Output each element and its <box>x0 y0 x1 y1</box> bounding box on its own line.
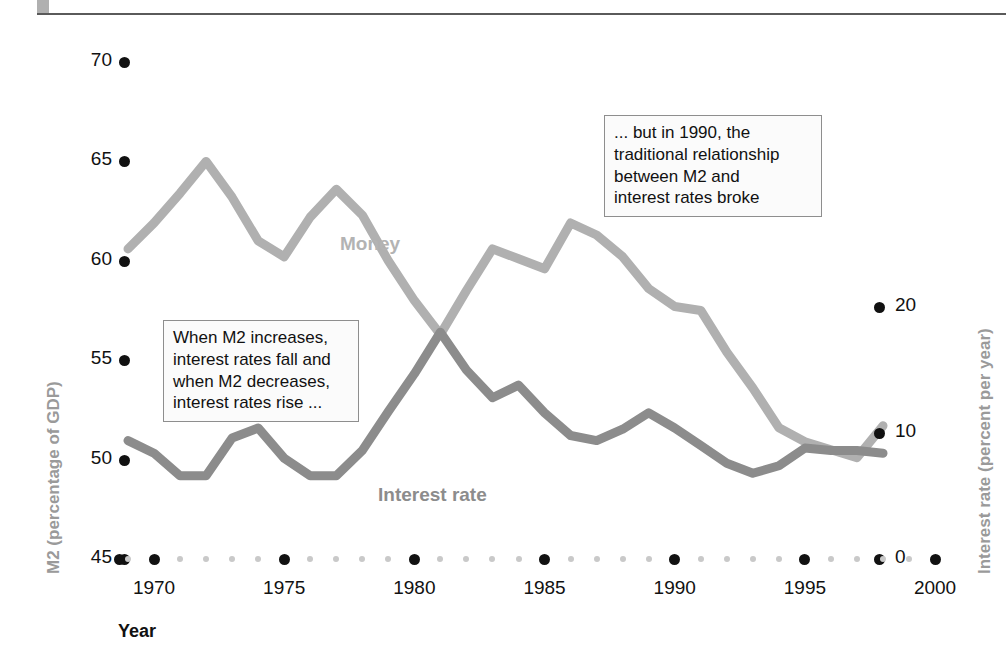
x-axis-tick-dot <box>930 554 941 565</box>
x-axis-tick-dot <box>149 554 160 565</box>
annotation-line: When M2 increases, <box>173 327 349 349</box>
x-axis-title: Year <box>118 621 156 642</box>
y-axis-left-tick-label: 50 <box>72 447 112 469</box>
series-label-interest: Interest rate <box>378 484 487 506</box>
annotation-m2-interest-relationship: When M2 increases, interest rates fall a… <box>163 320 359 422</box>
y-axis-left-tick-dot <box>119 256 130 267</box>
x-axis-minor-dot <box>854 556 860 562</box>
chart-page: 455055606570 01020 197019751980198519901… <box>0 0 1006 667</box>
x-axis-tick-dot <box>799 554 810 565</box>
x-axis-tick-label: 1970 <box>114 577 194 599</box>
x-axis-minor-dot <box>620 556 626 562</box>
x-axis-minor-dot <box>698 556 704 562</box>
x-axis-minor-dot <box>568 556 574 562</box>
y-axis-right-title: Interest rate (percent per year) <box>975 328 995 574</box>
x-axis-minor-dot <box>646 556 652 562</box>
x-axis-origin-dot <box>114 554 125 565</box>
y-axis-left-tick-label: 55 <box>72 347 112 369</box>
y-axis-left-tick-label: 60 <box>72 248 112 270</box>
x-axis-minor-dot <box>750 556 756 562</box>
x-axis-minor-dot <box>880 556 886 562</box>
y-axis-right-tick-label: 20 <box>895 294 941 316</box>
y-axis-left-tick-label: 45 <box>72 546 112 568</box>
x-axis-tick-label: 1985 <box>505 577 585 599</box>
annotation-line: interest rates rise ... <box>173 392 349 414</box>
y-axis-left-tick-label: 70 <box>72 49 112 71</box>
x-axis-tick-label: 1990 <box>635 577 715 599</box>
y-axis-right-tick-dot <box>874 428 885 439</box>
annotation-line: between M2 and <box>614 166 812 188</box>
x-axis-tick-label: 1980 <box>374 577 454 599</box>
annotation-line: ... but in 1990, the <box>614 122 812 144</box>
x-axis-minor-dot <box>776 556 782 562</box>
y-axis-left-tick-dot <box>119 57 130 68</box>
x-axis-tick-dot <box>279 554 290 565</box>
header-strip <box>0 0 1006 14</box>
x-axis-minor-dot <box>828 556 834 562</box>
x-axis-tick-label: 1995 <box>765 577 845 599</box>
annotation-line: interest rates broke <box>614 187 812 209</box>
x-axis-tick-label: 2000 <box>895 577 975 599</box>
series-label-money: Money <box>340 233 400 255</box>
plot-area: 455055606570 01020 197019751980198519901… <box>0 14 1006 667</box>
y-axis-left-title: M2 (percentage of GDP) <box>44 381 64 574</box>
x-axis-minor-dot <box>594 556 600 562</box>
chart-svg <box>0 14 1006 667</box>
x-axis-minor-dot <box>906 556 912 562</box>
y-axis-right-tick-dot <box>874 302 885 313</box>
y-axis-left-tick-label: 65 <box>72 148 112 170</box>
header-tab-marker <box>37 0 49 14</box>
x-axis-minor-dot <box>724 556 730 562</box>
x-axis-minor-dot <box>516 556 522 562</box>
y-axis-left-tick-dot <box>119 455 130 466</box>
x-axis-tick-dot <box>669 554 680 565</box>
y-axis-right-tick-label: 10 <box>895 420 941 442</box>
x-axis-tick-dot <box>409 554 420 565</box>
annotation-line: interest rates fall and <box>173 349 349 371</box>
x-axis-tick-dot <box>539 554 550 565</box>
annotation-line: traditional relationship <box>614 144 812 166</box>
x-axis-minor-dot <box>125 556 131 562</box>
annotation-1990-break: ... but in 1990, the traditional relatio… <box>604 115 822 217</box>
x-axis-tick-label: 1975 <box>244 577 324 599</box>
annotation-line: when M2 decreases, <box>173 371 349 393</box>
